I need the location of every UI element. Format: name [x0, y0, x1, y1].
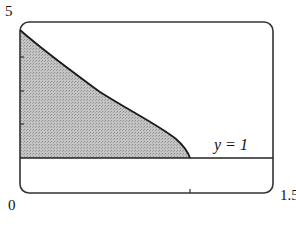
x-max-label: 1.5: [280, 188, 296, 203]
shaded-region: [20, 30, 190, 158]
origin-label: 0: [8, 198, 16, 213]
y-max-label: 5: [5, 4, 13, 19]
plot-area: [0, 0, 296, 229]
line-annotation: y = 1: [214, 137, 248, 153]
